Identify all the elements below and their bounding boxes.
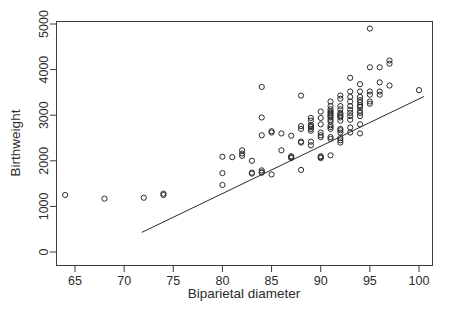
x-tick-label: 100 — [409, 274, 430, 288]
y-tick-label: 5000 — [37, 10, 51, 38]
y-axis-title: Birthweight — [8, 109, 23, 176]
y-tick-label: 3000 — [37, 101, 51, 129]
x-tick-label: 75 — [166, 274, 180, 288]
x-tick-label: 95 — [363, 274, 377, 288]
y-tick-label: 1000 — [37, 192, 51, 220]
y-tick-label: 2000 — [37, 147, 51, 175]
x-tick-label: 90 — [314, 274, 328, 288]
scatter-plot-figure: 010002000300040005000 65707580859095100 … — [0, 0, 450, 315]
x-tick-label: 70 — [117, 274, 131, 288]
plot-canvas: 010002000300040005000 65707580859095100 … — [0, 0, 450, 315]
y-tick-label: 0 — [37, 248, 51, 255]
x-axis-title: Biparietal diameter — [188, 286, 301, 301]
y-tick-label: 4000 — [37, 56, 51, 84]
x-tick-label: 65 — [68, 274, 82, 288]
